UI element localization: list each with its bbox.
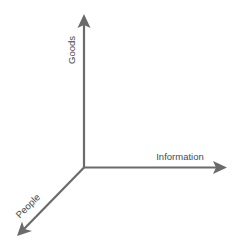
axes-diagram <box>0 0 235 250</box>
information-axis-label: Information <box>156 152 204 162</box>
goods-axis-label: Goods <box>67 36 77 64</box>
